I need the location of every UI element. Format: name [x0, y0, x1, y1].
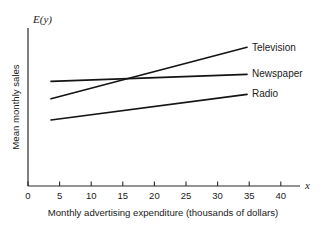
series-line-newspaper: [51, 74, 247, 81]
x-tick-label-30: 30: [212, 190, 223, 201]
x-tick-labels: 0 5 10 15 20 25 30 35 40: [25, 190, 286, 201]
x-axis-symbol-label: x: [304, 179, 310, 191]
y-axis-title: Mean monthly sales: [10, 64, 21, 150]
y-axis-symbol-label: E(y): [32, 13, 52, 26]
x-tick-label-0: 0: [25, 190, 30, 201]
series-line-radio: [51, 94, 247, 120]
x-tick-label-20: 20: [149, 190, 160, 201]
legend-label-newspaper: Newspaper: [252, 68, 303, 79]
legend-label-radio: Radio: [252, 88, 279, 99]
x-axis-ticks: [28, 182, 281, 187]
x-tick-label-40: 40: [276, 190, 287, 201]
line-chart-plot: 0 5 10 15 20 25 30 35 40 E(y) x Monthly …: [0, 0, 327, 231]
chart-container: 0 5 10 15 20 25 30 35 40 E(y) x Monthly …: [0, 0, 327, 231]
x-tick-label-25: 25: [181, 190, 192, 201]
x-tick-label-35: 35: [244, 190, 255, 201]
x-tick-label-10: 10: [86, 190, 97, 201]
x-axis-title: Monthly advertising expenditure (thousan…: [48, 207, 278, 218]
series-line-television: [51, 47, 247, 98]
legend-label-television: Television: [252, 42, 296, 53]
x-tick-label-5: 5: [57, 190, 62, 201]
x-tick-label-15: 15: [118, 190, 129, 201]
